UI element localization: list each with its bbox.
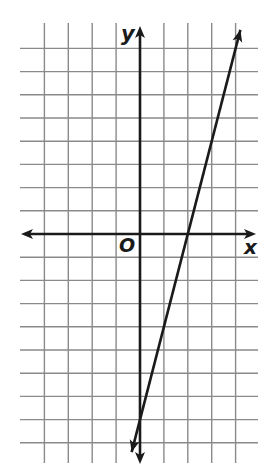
plotted-line	[130, 30, 242, 452]
origin-label: O	[119, 236, 135, 255]
coordinate-plane	[0, 0, 276, 474]
y-axis-label: y	[121, 24, 135, 45]
axes	[21, 26, 256, 464]
line-y-equals-4x-minus-8	[132, 30, 241, 452]
x-axis-label: x	[244, 237, 257, 257]
